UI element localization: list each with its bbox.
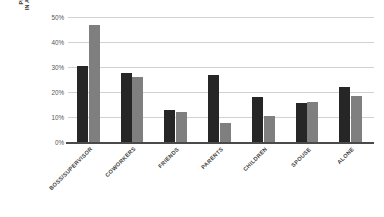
y-axis-tick-label: 20% (34, 89, 64, 96)
bar (164, 110, 175, 143)
bar-group (199, 17, 243, 142)
x-axis-category-labels: BOSS/SUPERVISORCOWORKERSFRIENDSPARENTSCH… (68, 143, 374, 217)
bar-group (112, 17, 156, 142)
y-axis-tick-label: 30% (34, 64, 64, 71)
plot-area (68, 17, 374, 142)
y-axis-title-line-2: IN AN UNPLEASANT STATE (24, 0, 30, 10)
bar-group (68, 17, 112, 142)
x-axis-category-label: PARENTS (200, 146, 224, 170)
x-axis-category-label: FRIENDS (157, 146, 180, 169)
x-axis-category-label: SPOUSE (290, 146, 312, 168)
bar (339, 87, 350, 142)
x-axis-category-label: ALONE (336, 146, 355, 165)
bar (176, 112, 187, 142)
bar (296, 103, 307, 142)
x-axis-category-label: COWORKERS (104, 146, 137, 179)
bar-group (155, 17, 199, 142)
bar (208, 75, 219, 143)
bar (220, 123, 231, 142)
bar-chart: PERCENTAGE OF TIME IN AN UNPLEASANT STAT… (0, 0, 384, 217)
x-axis-category-label: BOSS/SUPERVISOR (48, 146, 94, 192)
y-axis-title: PERCENTAGE OF TIME IN AN UNPLEASANT STAT… (14, 0, 34, 36)
bar-series-container (68, 17, 374, 142)
bar (121, 73, 132, 142)
bar (264, 116, 275, 142)
x-axis-category-label: CHILDREN (242, 146, 268, 172)
y-axis-tick-label: 40% (34, 39, 64, 46)
bar (351, 96, 362, 142)
bar-group (330, 17, 374, 142)
bar-group (287, 17, 331, 142)
bar (307, 102, 318, 142)
y-axis-tick-labels: 0%10%20%30%40%50% (32, 17, 64, 142)
y-axis-tick-label: 0% (34, 139, 64, 146)
y-axis-tick-label: 50% (34, 14, 64, 21)
bar (132, 77, 143, 142)
bar (89, 25, 100, 143)
y-axis-tick-label: 10% (34, 114, 64, 121)
bar (252, 97, 263, 142)
bar-group (243, 17, 287, 142)
bar (77, 66, 88, 142)
